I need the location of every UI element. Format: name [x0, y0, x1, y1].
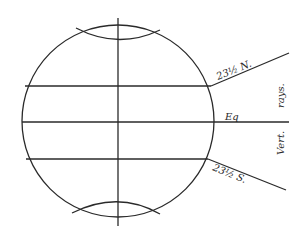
label-tropic-south: 23½ S. [210, 161, 248, 185]
label-tropic-north: 23½ N. [214, 58, 253, 82]
label-vertical-rays-top: rays. [275, 83, 286, 108]
globe-diagram: 23½ N. Eq 23½ S. rays. Vert. [0, 0, 306, 241]
label-vertical-rays-bottom: Vert. [275, 131, 286, 155]
label-equator: Eq [224, 111, 239, 122]
